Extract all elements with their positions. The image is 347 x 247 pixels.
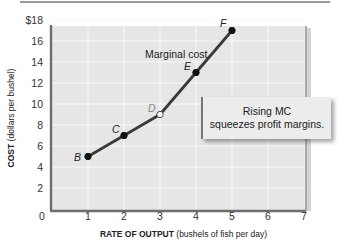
x-tick-label: 3 xyxy=(157,210,163,222)
point-marker-e xyxy=(193,69,199,75)
point-label-d: D xyxy=(148,102,156,114)
point-marker-d xyxy=(157,111,163,117)
callout-line-2: squeezes profit margins. xyxy=(203,118,331,131)
y-tick-label: 6 xyxy=(37,140,43,152)
point-label-f: F xyxy=(220,17,227,29)
y-axis-label: COST (dollars per bushel) xyxy=(6,69,16,168)
x-tick-label: 6 xyxy=(265,210,271,222)
point-marker-c xyxy=(121,132,127,138)
x-axis-label-rest: (bushels of fish per day) xyxy=(176,229,267,239)
x-axis-label-bold: RATE OF OUTPUT xyxy=(100,229,174,239)
y-tick-label: 2 xyxy=(37,182,43,194)
x-tick-label: 2 xyxy=(121,210,127,222)
point-label-e: E xyxy=(184,60,192,72)
y-tick-label: 4 xyxy=(37,161,43,173)
y-tick-label: $18 xyxy=(25,14,43,26)
point-marker-f xyxy=(229,27,235,33)
point-marker-b xyxy=(85,153,91,159)
x-tick-label: 7 xyxy=(301,210,307,222)
y-tick-label: 16 xyxy=(31,35,43,47)
y-tick-label: 8 xyxy=(37,119,43,131)
x-axis-label: RATE OF OUTPUT (bushels of fish per day) xyxy=(0,229,347,239)
point-label-b: B xyxy=(74,151,81,163)
curve-label: Marginal cost xyxy=(145,48,208,60)
x-tick-label: 4 xyxy=(193,210,199,222)
callout-box: Rising MC squeezes profit margins. xyxy=(201,97,331,139)
callout-line-1: Rising MC xyxy=(203,105,331,118)
x-tick-label: 0 xyxy=(39,210,45,222)
y-tick-label: 10 xyxy=(31,98,43,110)
point-label-c: C xyxy=(112,123,120,135)
x-tick-label: 5 xyxy=(229,210,235,222)
y-tick-label: 14 xyxy=(31,56,43,68)
y-axis-label-rest: (dollars per bushel) xyxy=(6,69,16,142)
y-axis-label-bold: COST xyxy=(6,144,16,168)
y-tick-label: 12 xyxy=(31,77,43,89)
x-tick-label: 1 xyxy=(85,210,91,222)
